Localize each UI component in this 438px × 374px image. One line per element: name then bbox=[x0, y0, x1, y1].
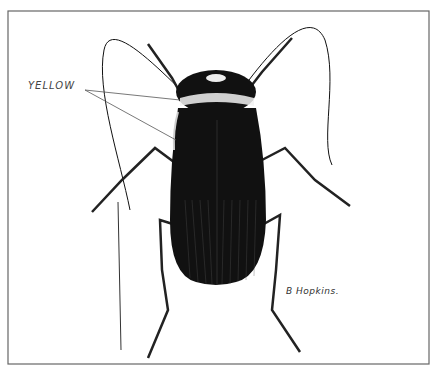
right-middle-leg bbox=[262, 148, 350, 206]
left-middle-leg bbox=[92, 148, 178, 212]
yellow-annotation-label: YELLOW bbox=[28, 80, 75, 91]
pointer-line-2 bbox=[85, 90, 176, 140]
pointer-line-1 bbox=[85, 90, 180, 100]
scale-bar bbox=[118, 202, 121, 350]
cockroach-illustration bbox=[0, 0, 438, 374]
wings bbox=[170, 108, 266, 285]
artist-signature: B Hopkins. bbox=[286, 286, 339, 296]
illustration-frame bbox=[0, 0, 438, 374]
pronotum-highlight bbox=[206, 74, 226, 82]
right-hind-leg bbox=[262, 215, 300, 352]
